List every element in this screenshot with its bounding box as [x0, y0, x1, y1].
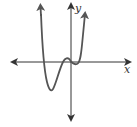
y-axis-label: y	[74, 2, 82, 15]
x-axis-label: x	[124, 63, 131, 76]
polynomial-graph: y x	[0, 0, 137, 127]
polynomial-curve	[41, 14, 85, 90]
polynomial-curve-left-end	[41, 6, 42, 16]
